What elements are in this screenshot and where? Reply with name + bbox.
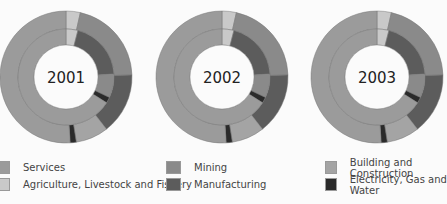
legend-item-manufacturing: Manufacturing bbox=[166, 176, 266, 193]
legend-item-agriculture: Agriculture, Livestock and Fishery bbox=[0, 176, 192, 193]
legend-item-mining: Mining bbox=[166, 159, 266, 176]
legend-label: Services bbox=[23, 162, 65, 173]
legend-column-1: Services Agriculture, Livestock and Fish… bbox=[0, 159, 192, 193]
legend-column-2: Mining Manufacturing bbox=[166, 159, 266, 193]
donut-label-2003: 2003 bbox=[358, 69, 396, 87]
swatch-electricity bbox=[325, 178, 337, 191]
legend-column-3: Building and Construction Electricity, G… bbox=[325, 159, 447, 193]
donut-label-2002: 2002 bbox=[203, 69, 241, 87]
legend-item-electricity: Electricity, Gas and Water bbox=[325, 176, 447, 193]
donut-label-2001: 2001 bbox=[47, 69, 85, 87]
swatch-agriculture bbox=[0, 178, 10, 191]
swatch-manufacturing bbox=[166, 178, 181, 191]
swatch-mining bbox=[166, 161, 181, 174]
swatch-building bbox=[325, 161, 337, 174]
legend-label: Electricity, Gas and Water bbox=[350, 174, 447, 196]
legend-item-services: Services bbox=[0, 159, 192, 176]
legend-label: Manufacturing bbox=[194, 179, 266, 190]
swatch-services bbox=[0, 161, 10, 174]
legend-label: Mining bbox=[194, 162, 227, 173]
